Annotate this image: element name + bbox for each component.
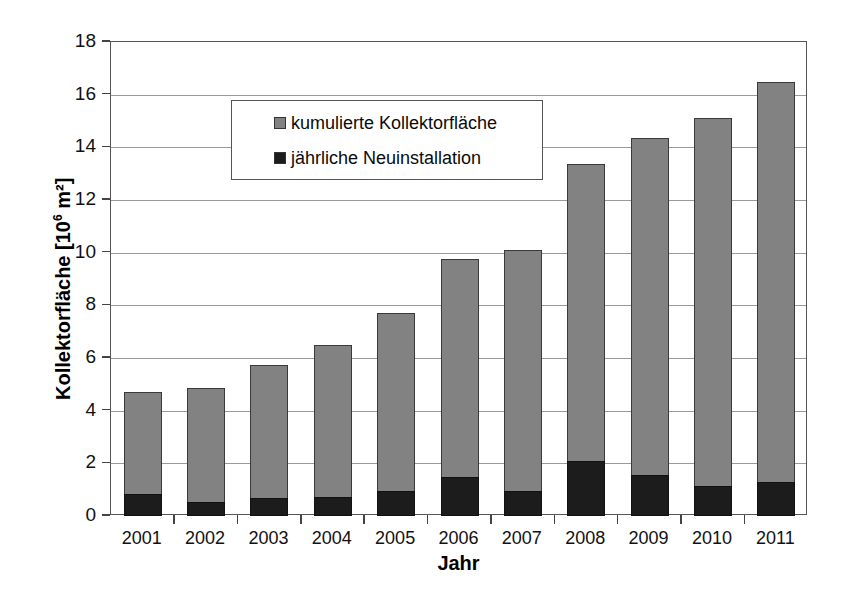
bar-cumulative-2007 xyxy=(504,250,542,516)
y-tick-mark xyxy=(102,251,110,253)
bar-cumulative-2004 xyxy=(314,345,352,516)
x-tick-mark xyxy=(554,515,556,524)
legend: kumulierte Kollektorfläche jährliche Neu… xyxy=(231,100,543,180)
y-tick-label-wrap: 14 xyxy=(0,136,96,155)
solar-collector-area-bar-chart: Kollektorfläche [106 m²] 024681012141618… xyxy=(0,0,845,603)
y-tick-label: 6 xyxy=(44,347,96,366)
bar-cumulative-2005 xyxy=(377,313,415,516)
x-tick-mark xyxy=(680,515,682,524)
x-tick-mark xyxy=(744,515,746,524)
y-tick-label: 16 xyxy=(44,84,96,103)
y-tick-label: 0 xyxy=(44,505,96,524)
x-tick-mark xyxy=(427,515,429,524)
bar-annual-2006 xyxy=(441,477,479,517)
bar-annual-2003 xyxy=(250,498,288,516)
y-tick-label: 12 xyxy=(44,189,96,208)
bar-annual-2007 xyxy=(504,491,542,516)
legend-label-cumulative: kumulierte Kollektorfläche xyxy=(291,113,497,133)
x-axis-title: Jahr xyxy=(110,552,807,575)
y-tick-mark xyxy=(102,40,110,42)
y-tick-label: 10 xyxy=(44,242,96,261)
y-tick-label: 18 xyxy=(44,31,96,50)
gridline xyxy=(111,95,806,96)
bar-cumulative-2003 xyxy=(250,365,288,516)
x-tick-mark xyxy=(490,515,492,524)
x-tick-mark xyxy=(300,515,302,524)
figure-caption xyxy=(14,592,834,603)
bar-annual-2010 xyxy=(694,486,732,516)
y-tick-label-wrap: 12 xyxy=(0,189,96,208)
x-tick-mark xyxy=(363,515,365,524)
y-tick-label-wrap: 8 xyxy=(0,294,96,313)
bar-annual-2005 xyxy=(377,491,415,516)
y-tick-mark xyxy=(102,93,110,95)
bar-annual-2011 xyxy=(757,482,795,516)
bar-annual-2009 xyxy=(631,475,669,516)
y-tick-label: 4 xyxy=(44,400,96,419)
y-tick-mark xyxy=(102,514,110,516)
bar-cumulative-2010 xyxy=(694,118,732,516)
y-tick-mark xyxy=(102,198,110,200)
legend-item-jaehrliche-neuinstallation: jährliche Neuinstallation xyxy=(274,146,481,170)
bar-annual-2008 xyxy=(567,461,605,516)
y-tick-label-wrap: 18 xyxy=(0,31,96,50)
y-tick-label: 2 xyxy=(44,452,96,471)
y-tick-mark xyxy=(102,462,110,464)
bar-cumulative-2002 xyxy=(187,388,225,516)
y-tick-label: 8 xyxy=(44,294,96,313)
x-tick-mark xyxy=(173,515,175,524)
bar-cumulative-2011 xyxy=(757,82,795,517)
x-tick-mark xyxy=(237,515,239,524)
y-tick-label-wrap: 2 xyxy=(0,452,96,471)
y-tick-label-wrap: 0 xyxy=(0,505,96,524)
bar-cumulative-2009 xyxy=(631,138,669,516)
legend-swatch-annual-icon xyxy=(274,152,286,164)
y-tick-label-wrap: 10 xyxy=(0,242,96,261)
legend-swatch-cumulative-icon xyxy=(274,117,286,129)
legend-label-annual: jährliche Neuinstallation xyxy=(291,148,481,168)
x-tick-mark xyxy=(617,515,619,524)
y-axis-title-exponent: 6 xyxy=(51,214,65,221)
y-tick-mark xyxy=(102,304,110,306)
bar-annual-2004 xyxy=(314,497,352,516)
bar-annual-2002 xyxy=(187,502,225,516)
y-tick-mark xyxy=(102,409,110,411)
y-tick-label-wrap: 6 xyxy=(0,347,96,366)
y-tick-label: 14 xyxy=(44,136,96,155)
y-tick-mark xyxy=(102,356,110,358)
legend-item-kumulierte-kollektorflaeche: kumulierte Kollektorfläche xyxy=(274,111,497,135)
y-tick-mark xyxy=(102,146,110,148)
plot-area: kumulierte Kollektorfläche jährliche Neu… xyxy=(110,41,807,515)
bar-annual-2001 xyxy=(124,494,162,516)
y-tick-label-wrap: 4 xyxy=(0,400,96,419)
x-tick-label-2011: 2011 xyxy=(735,528,815,548)
y-tick-label-wrap: 16 xyxy=(0,84,96,103)
